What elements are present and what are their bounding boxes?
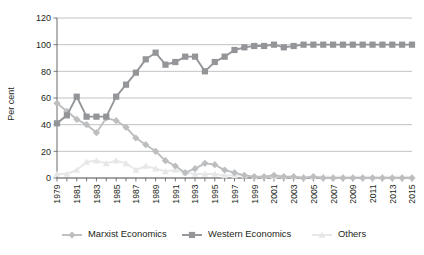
chart-container: 020406080100120 197919811983198519871989… [0,0,424,255]
x-tick-label: 1999 [250,184,260,203]
x-tick-label: 1993 [190,184,200,203]
data-point-marker [281,44,287,50]
data-point-marker [192,54,198,60]
data-point-marker [93,114,99,120]
x-tick-label: 2013 [388,184,398,203]
x-tick-label: 2005 [309,184,319,203]
data-point-marker [330,42,336,48]
data-point-marker [320,42,326,48]
data-point-marker [350,42,356,48]
x-tick-label: 1981 [72,184,82,203]
x-tick-label: 1987 [131,184,141,203]
data-point-marker [103,114,109,120]
data-point-marker [189,232,195,238]
legend-label: Others [338,228,366,239]
y-tick-label: 80 [41,67,51,77]
data-point-marker [222,54,228,60]
y-tick-label: 0 [46,173,51,183]
y-axis-title: Per cent [6,87,16,121]
data-point-marker [261,43,267,49]
x-tick-label: 2003 [289,184,299,203]
data-point-marker [83,114,89,120]
y-tick-label: 60 [41,93,51,103]
legend-label: Marxist Economics [88,228,167,239]
x-tick-label: 1989 [151,184,161,203]
x-tick-label: 2001 [269,184,279,203]
x-tick-label: 2015 [407,184,417,203]
legend-label: Western Economics [208,228,292,239]
x-tick-label: 1997 [230,184,240,203]
data-point-marker [123,82,129,88]
data-point-marker [379,42,385,48]
x-tick-label: 2011 [368,184,378,203]
data-point-marker [369,42,375,48]
y-tick-label: 40 [41,120,51,130]
data-point-marker [54,120,60,126]
data-point-marker [162,62,168,68]
x-tick-label: 2009 [348,184,358,203]
x-tick-label: 1995 [210,184,220,203]
data-point-marker [310,42,316,48]
data-point-marker [212,59,218,65]
data-point-marker [153,50,159,56]
data-point-marker [409,42,415,48]
data-point-marker [231,47,237,53]
data-point-marker [251,43,257,49]
data-point-marker [271,42,277,48]
data-point-marker [360,42,366,48]
x-tick-label: 2007 [329,184,339,203]
data-point-marker [182,54,188,60]
data-point-marker [291,43,297,49]
data-point-marker [241,44,247,50]
data-point-marker [172,59,178,65]
x-tick-label: 1983 [92,184,102,203]
y-tick-label: 20 [41,147,51,157]
y-tick-label: 120 [36,13,51,23]
data-point-marker [300,42,306,48]
line-chart: 020406080100120 197919811983198519871989… [0,0,424,255]
data-point-marker [64,112,70,118]
data-point-marker [133,70,139,76]
data-point-marker [143,56,149,62]
data-point-marker [399,42,405,48]
x-tick-label: 1991 [171,184,181,203]
plot-background [0,0,424,255]
data-point-marker [113,94,119,100]
x-tick-label: 1985 [112,184,122,203]
x-tick-label: 1979 [52,184,62,203]
y-tick-label: 100 [36,40,51,50]
data-point-marker [74,94,80,100]
data-point-marker [340,42,346,48]
data-point-marker [202,68,208,74]
data-point-marker [389,42,395,48]
